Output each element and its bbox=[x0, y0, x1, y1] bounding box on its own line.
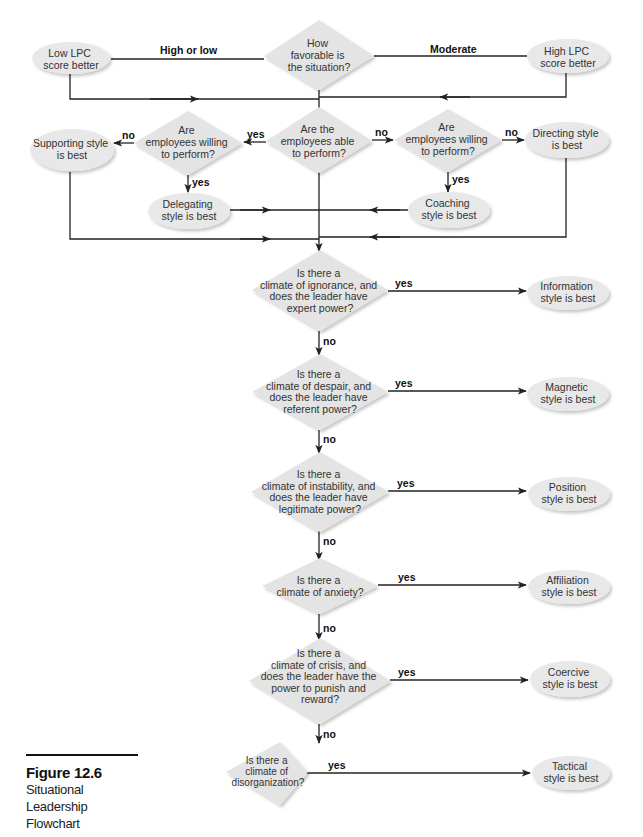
label-moderate: Moderate bbox=[430, 43, 477, 55]
affiliation-label: Affiliation style is best bbox=[542, 574, 597, 598]
label-willing-right-no: no bbox=[505, 126, 518, 138]
label-ignorance-yes: yes bbox=[395, 277, 413, 289]
coercive-label: Coercive style is best bbox=[543, 666, 598, 690]
label-willing-right-yes: yes bbox=[452, 173, 470, 185]
label-despair-yes: yes bbox=[395, 377, 413, 389]
label-anxiety-yes: yes bbox=[398, 571, 416, 583]
label-able-no: no bbox=[375, 126, 388, 138]
instability-label: Is there a climate of instability, and d… bbox=[262, 468, 379, 515]
label-willing-left-yes: yes bbox=[192, 176, 210, 188]
label-ignorance-no: no bbox=[323, 335, 336, 347]
edge-high-lpc-merge bbox=[319, 73, 566, 97]
label-despair-no: no bbox=[323, 433, 336, 445]
information-label: Information style is best bbox=[540, 280, 595, 304]
label-crisis-no: no bbox=[323, 728, 336, 740]
label-anxiety-no: no bbox=[323, 622, 336, 634]
figure-title-line-2: Flowchart bbox=[26, 815, 138, 832]
caption-rule bbox=[26, 754, 138, 756]
label-disorganization-yes: yes bbox=[328, 759, 346, 771]
label-high-or-low: High or low bbox=[160, 44, 218, 56]
label-instability-no: no bbox=[323, 535, 336, 547]
high-lpc-label: High LPC score better bbox=[540, 45, 596, 69]
figure-title-line-1: Situational Leadership bbox=[26, 781, 138, 815]
node-labels: How favorable is the situation? Low LPC … bbox=[33, 37, 602, 788]
figure-number: Figure 12.6 bbox=[26, 764, 138, 781]
delegating-label: Delegating style is best bbox=[162, 198, 217, 222]
low-lpc-label: Low LPC score better bbox=[43, 47, 99, 71]
edge-low-lpc-merge bbox=[70, 73, 319, 99]
situational-leadership-flowchart: How favorable is the situation? Low LPC … bbox=[0, 0, 643, 837]
label-instability-yes: yes bbox=[397, 477, 415, 489]
ignorance-label: Is there a climate of ignorance, and doe… bbox=[260, 267, 380, 314]
figure-caption: Figure 12.6 Situational Leadership Flowc… bbox=[26, 754, 138, 832]
magnetic-label: Magnetic style is best bbox=[541, 381, 596, 405]
position-label: Position style is best bbox=[542, 481, 597, 505]
label-willing-left-no: no bbox=[122, 129, 135, 141]
coaching-label: Coaching style is best bbox=[422, 197, 477, 221]
label-crisis-yes: yes bbox=[398, 666, 416, 678]
label-able-yes: yes bbox=[247, 128, 265, 140]
